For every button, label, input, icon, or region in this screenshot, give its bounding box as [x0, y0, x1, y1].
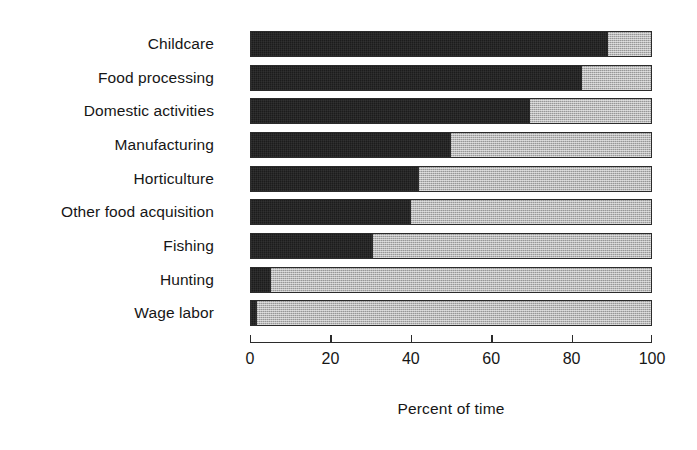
bar-row — [250, 199, 652, 225]
bar-segment-light — [372, 234, 651, 258]
x-axis-tick — [411, 335, 412, 342]
bar-row — [250, 267, 652, 293]
category-label-domestic-activities: Domestic activities — [0, 94, 228, 128]
category-label-column: Childcare Food processing Domestic activ… — [0, 27, 228, 330]
bar-segment-dark — [251, 32, 608, 56]
x-axis-tick-label: 20 — [321, 351, 339, 367]
category-label-horticulture: Horticulture — [0, 162, 228, 196]
category-label-manufacturing: Manufacturing — [0, 128, 228, 162]
bar-segment-light — [270, 268, 651, 292]
x-axis-tick-label: 60 — [482, 351, 500, 367]
category-label-other-food-acquisition: Other food acquisition — [0, 195, 228, 229]
x-axis-tick-label: 80 — [563, 351, 581, 367]
stacked-bar-chart: Childcare Food processing Domestic activ… — [0, 0, 697, 450]
x-axis-tick — [250, 335, 251, 342]
bar-segment-light — [529, 99, 651, 123]
x-axis-title: Percent of time — [250, 401, 652, 417]
bar-segment-light — [410, 200, 651, 224]
bar-row — [250, 98, 652, 124]
category-label-fishing: Fishing — [0, 229, 228, 263]
x-axis-tick — [330, 335, 331, 342]
x-axis-tick-label: 0 — [246, 351, 255, 367]
bar-segment-dark — [251, 268, 271, 292]
x-axis-tick-label: 100 — [639, 351, 666, 367]
x-axis: 020406080100 — [250, 342, 652, 343]
bar-row — [250, 31, 652, 57]
bar-segment-light — [450, 133, 652, 157]
x-axis-tick — [651, 335, 652, 342]
bar-row — [250, 233, 652, 259]
bar-segment-dark — [251, 66, 582, 90]
plot-area — [250, 27, 652, 330]
x-axis-line — [250, 342, 652, 343]
bar-row — [250, 300, 652, 326]
bar-segment-light — [256, 301, 651, 325]
category-label-hunting: Hunting — [0, 263, 228, 297]
x-axis-tick — [491, 335, 492, 342]
x-axis-tick-label: 40 — [402, 351, 420, 367]
bar-segment-dark — [251, 234, 373, 258]
category-label-wage-labor: Wage labor — [0, 296, 228, 330]
bar-segment-light — [607, 32, 651, 56]
bar-segment-dark — [251, 167, 419, 191]
bar-row — [250, 132, 652, 158]
bar-row — [250, 65, 652, 91]
bar-segment-dark — [251, 200, 411, 224]
bar-segment-dark — [251, 99, 530, 123]
x-axis-tick — [572, 335, 573, 342]
bar-segment-light — [418, 167, 651, 191]
category-label-childcare: Childcare — [0, 27, 228, 61]
bar-segment-light — [581, 66, 651, 90]
category-label-food-processing: Food processing — [0, 61, 228, 95]
bar-row — [250, 166, 652, 192]
bar-segment-dark — [251, 133, 451, 157]
